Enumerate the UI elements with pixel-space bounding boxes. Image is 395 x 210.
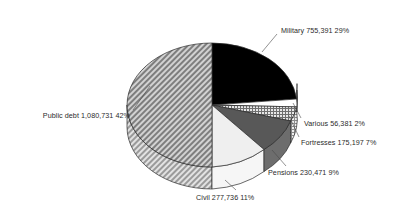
leader-military (262, 34, 277, 52)
label-pensions: Pensions 230,471 9% (268, 168, 339, 177)
label-fortresses: Fortresses 175,197 7% (301, 138, 377, 147)
slice-military (212, 43, 297, 105)
label-public-debt: Public debt 1,080,731 42% (43, 111, 131, 120)
pie-chart-figure: Military 755,391 29% Various 56,381 2% F… (0, 0, 395, 210)
label-various: Various 56,381 2% (304, 119, 366, 128)
label-military: Military 755,391 29% (281, 26, 350, 35)
pie-chart-svg: Military 755,391 29% Various 56,381 2% F… (0, 0, 395, 210)
label-civil: Civil 277,736 11% (196, 193, 255, 202)
